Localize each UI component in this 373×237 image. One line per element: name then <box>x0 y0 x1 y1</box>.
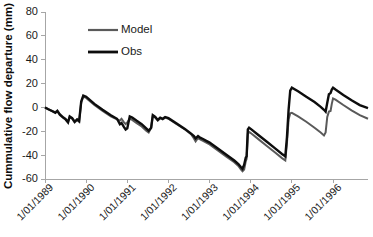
y-tick-label: 20 <box>26 77 38 89</box>
y-tick-label: 40 <box>26 53 38 65</box>
y-tick-label: -20 <box>22 125 38 137</box>
x-tick-label: 1/01/1995 <box>261 181 303 223</box>
caption-fragment <box>0 230 373 237</box>
y-axis-title: Cummulative flow departure (mm) <box>2 3 14 189</box>
y-axis-tick-marks <box>41 12 45 179</box>
x-tick-label: 1/01/1992 <box>137 181 179 223</box>
x-tick-label: 1/01/1994 <box>220 181 262 223</box>
x-tick-label: 1/01/1990 <box>55 181 97 223</box>
figure-container: -60-40-20020406080 1/01/19891/01/19901/0… <box>0 0 373 237</box>
y-tick-label: -40 <box>22 149 38 161</box>
y-tick-label: 0 <box>32 101 38 113</box>
x-tick-label: 1/01/1991 <box>96 181 138 223</box>
y-tick-label: -60 <box>22 172 38 184</box>
x-tick-label: 1/01/1993 <box>178 181 220 223</box>
cumulative-flow-departure-chart: -60-40-20020406080 1/01/19891/01/19901/0… <box>0 0 373 237</box>
legend-label-model: Model <box>121 23 152 35</box>
x-axis-tick-labels: 1/01/19891/01/19901/01/19911/01/19921/01… <box>14 181 344 223</box>
y-tick-label: 80 <box>26 5 38 17</box>
y-axis-tick-labels: -60-40-20020406080 <box>22 5 38 184</box>
y-tick-label: 60 <box>26 29 38 41</box>
plot-background <box>45 12 368 179</box>
x-tick-label: 1/01/1989 <box>14 181 56 223</box>
legend-label-obs: Obs <box>121 45 142 57</box>
x-tick-label: 1/01/1996 <box>302 181 344 223</box>
